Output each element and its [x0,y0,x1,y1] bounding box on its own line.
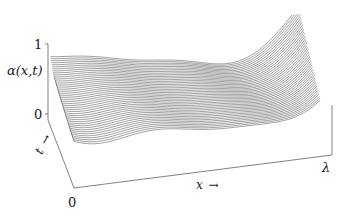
surface-curve [51,14,304,71]
figure-3d-waterfall-plot: α(x,t) 1 0 0 x → λ t → [0,0,346,223]
surface-curve [50,12,303,69]
surface-curve [50,10,302,68]
y-axis-label: α(x,t) [7,63,43,78]
y-axis-ticks [45,44,48,114]
plot-canvas [0,0,346,223]
surface-right-edge [300,6,332,87]
x-origin-label: 0 [68,195,76,210]
x-axis-label: x → [196,178,220,192]
surface-mesh [48,6,332,144]
surface-curve [55,28,309,81]
surface-curve [52,16,305,72]
y-tick-label-one: 1 [34,37,42,52]
surface-curve [52,18,305,74]
surface-curve [48,6,300,64]
y-tick-label-zero: 0 [34,107,42,122]
x-end-label-lambda: λ [322,160,330,175]
